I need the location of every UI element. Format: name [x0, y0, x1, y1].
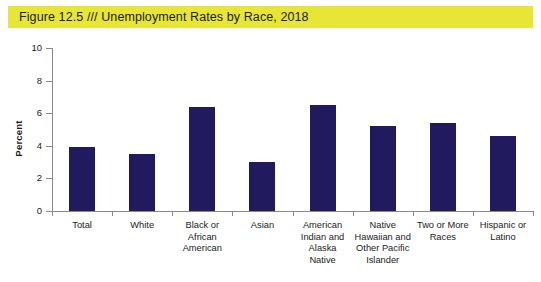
x-axis-category-label-line: Alaska — [293, 243, 353, 255]
x-axis-category-label-line: Islander — [353, 255, 413, 267]
x-axis-category-label-line: American — [172, 243, 232, 255]
x-axis-category-label-line: Other Pacific — [353, 243, 413, 255]
x-axis-tick — [232, 211, 233, 216]
x-axis-category-label-line: Asian — [232, 220, 292, 232]
x-axis-tick — [293, 211, 294, 216]
x-axis-category-label-line: Native — [353, 220, 413, 232]
y-axis-tick-label: 8 — [0, 75, 42, 86]
x-axis-category-label-line: Indian and — [293, 232, 353, 244]
y-axis-tick-label: 6 — [0, 107, 42, 118]
x-axis-tick — [172, 211, 173, 216]
y-axis-tick-label: 4 — [0, 140, 42, 151]
y-axis-tick-label: 2 — [0, 172, 42, 183]
x-axis-category-label: Black orAfricanAmerican — [172, 220, 232, 255]
x-axis-category-label: White — [112, 220, 172, 232]
bar — [249, 162, 275, 211]
x-axis-tick — [413, 211, 414, 216]
x-axis-category-label-line: African — [172, 232, 232, 244]
x-axis-category-label: Hispanic orLatino — [473, 220, 533, 243]
x-axis-tick — [473, 211, 474, 216]
x-axis-category-label-line: White — [112, 220, 172, 232]
x-axis-category-label-line: Total — [52, 220, 112, 232]
x-axis-category-label: AmericanIndian andAlaskaNative — [293, 220, 353, 266]
x-axis-category-label: Asian — [232, 220, 292, 232]
x-axis-category-label-line: Native — [293, 255, 353, 267]
bar — [69, 147, 95, 211]
x-axis-category-label-line: Hispanic or — [473, 220, 533, 232]
x-axis-category-label-line: Latino — [473, 232, 533, 244]
bar — [129, 154, 155, 211]
x-axis-category-label-line: Black or — [172, 220, 232, 232]
y-axis-tick-label: 0 — [0, 205, 42, 216]
bar — [370, 126, 396, 211]
x-axis-tick — [533, 211, 534, 216]
x-axis-category-label: Total — [52, 220, 112, 232]
figure-title-text: Figure 12.5 /// Unemployment Rates by Ra… — [8, 10, 309, 24]
x-axis-category-label: NativeHawaiian andOther PacificIslander — [353, 220, 413, 266]
bar — [490, 136, 516, 211]
bars-layer — [52, 48, 533, 211]
y-axis-tick-label: 10 — [0, 42, 42, 53]
x-axis-category-label-line: Two or More — [413, 220, 473, 232]
x-axis-category-label-line: Hawaiian and — [353, 232, 413, 244]
x-axis-category-label: Two or MoreRaces — [413, 220, 473, 243]
bar — [189, 107, 215, 211]
x-axis-tick — [112, 211, 113, 216]
x-axis-tick — [353, 211, 354, 216]
figure-title-banner: Figure 12.5 /// Unemployment Rates by Ra… — [8, 6, 533, 28]
x-axis-category-label-line: Races — [413, 232, 473, 244]
bar — [310, 105, 336, 211]
x-axis-category-label-line: American — [293, 220, 353, 232]
bar — [430, 123, 456, 211]
x-axis-tick — [52, 211, 53, 216]
chart-area: Percent 0246810 TotalWhiteBlack orAfrica… — [0, 36, 541, 282]
